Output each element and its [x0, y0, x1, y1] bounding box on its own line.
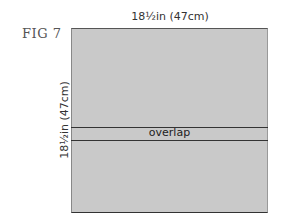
width-dimension-label: 18½in (47cm) [71, 10, 269, 23]
height-dimension-label: 18½in (47cm) [58, 81, 71, 159]
figure-label: FIG 7 [22, 26, 61, 41]
overlap-band: overlap [71, 127, 268, 141]
overlap-label: overlap [71, 126, 268, 139]
fabric-panel [71, 28, 268, 213]
